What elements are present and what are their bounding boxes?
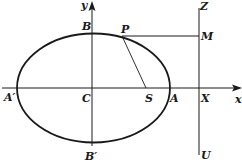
- label-point-b-prime: B′: [84, 150, 97, 163]
- label-point-u: U: [201, 149, 212, 162]
- label-point-b: B: [81, 20, 91, 33]
- label-x-axis: x: [234, 93, 242, 106]
- label-point-z: Z: [199, 0, 209, 13]
- label-y-axis: y: [80, 0, 89, 12]
- label-point-p: P: [120, 23, 130, 36]
- label-point-x: X: [200, 92, 210, 105]
- label-point-c: C: [82, 92, 91, 105]
- label-point-a: A: [169, 92, 179, 105]
- segment-ps: [122, 36, 146, 88]
- label-point-a-prime: A′: [3, 91, 16, 104]
- ellipse-diagram: y x B P Z M A′ C S A X B′ U: [0, 0, 242, 165]
- label-point-m: M: [200, 30, 214, 43]
- label-point-s: S: [145, 92, 153, 105]
